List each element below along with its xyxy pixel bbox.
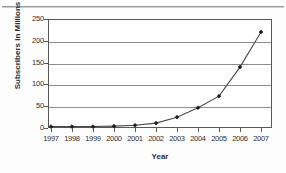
- x-tick-mark: [219, 128, 220, 132]
- chart-figure: Subscribers in Millions 250 200 150 100 …: [0, 0, 286, 173]
- y-tick-mark: [44, 128, 48, 129]
- data-point-marker: [133, 123, 137, 127]
- x-tick-mark: [114, 128, 115, 132]
- x-tick-mark: [135, 128, 136, 132]
- x-axis-title: Year: [48, 152, 272, 161]
- x-tick-label: 2007: [248, 134, 274, 143]
- x-tick-mark: [261, 128, 262, 132]
- plot-area: [48, 19, 272, 128]
- x-tick-mark: [198, 128, 199, 132]
- y-tick-label: 200: [18, 37, 44, 45]
- y-tick-label: 250: [18, 15, 44, 23]
- data-point-marker: [154, 121, 158, 125]
- series-line-subscribers: [49, 20, 271, 127]
- x-tick-mark: [240, 128, 241, 132]
- y-axis-tick-labels: 250 200 150 100 50 0: [14, 19, 44, 128]
- x-tick-mark: [156, 128, 157, 132]
- scan-rule-top-secondary: [2, 7, 284, 8]
- x-tick-mark: [51, 128, 52, 132]
- x-tick-mark: [177, 128, 178, 132]
- x-tick-mark: [93, 128, 94, 132]
- y-tick-label: 150: [18, 59, 44, 67]
- y-tick-label: 100: [18, 80, 44, 88]
- x-tick-mark: [72, 128, 73, 132]
- data-point-marker: [175, 115, 179, 119]
- y-tick-label: 50: [18, 102, 44, 110]
- y-tick-label: 0: [18, 124, 44, 132]
